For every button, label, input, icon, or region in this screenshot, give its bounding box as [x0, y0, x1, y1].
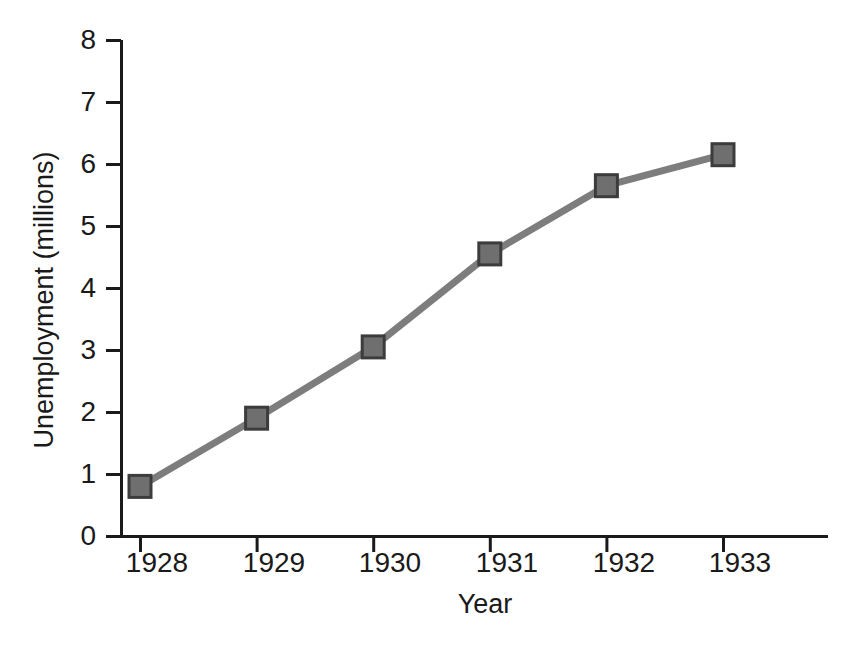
y-axis-ticks	[106, 41, 121, 537]
series-line	[140, 155, 723, 487]
data-point-1929	[246, 407, 268, 429]
x-axis-ticks	[141, 537, 724, 552]
data-point-1932	[595, 175, 617, 197]
data-point-1931	[479, 243, 501, 265]
data-point-1933	[712, 144, 734, 166]
data-point-1930	[362, 336, 384, 358]
data-point-1928	[129, 475, 151, 497]
series-markers	[129, 144, 734, 498]
plot-area	[0, 0, 868, 653]
data-line-unemployment	[140, 155, 723, 487]
axes	[120, 40, 828, 537]
unemployment-line-chart: Unemployment (millions) 8 7 6 5 4 3 2 1 …	[0, 0, 868, 653]
